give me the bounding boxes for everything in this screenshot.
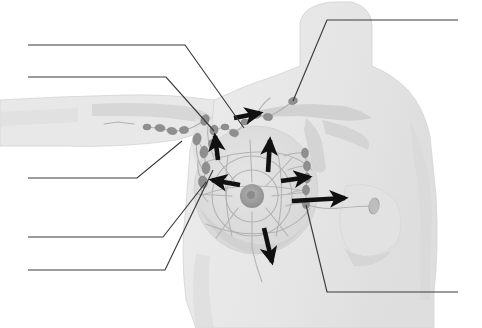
flow-arrow-to-internal-mammary-lower [292,198,345,201]
lymph-node [302,148,309,158]
breast-lymphatic-diagram [0,0,482,328]
opposite-nipple [369,198,379,214]
torso-silhouette [0,2,437,328]
lymph-node [303,185,310,195]
leader-line-lower-left-1[interactable] [28,182,206,237]
lymph-node [304,161,311,171]
lymph-node [221,124,229,130]
lymph-node [241,119,249,125]
lymph-node [202,162,210,174]
anatomy-illustration [0,0,482,328]
flow-arrow-central-up [268,140,270,172]
nipple [247,191,255,199]
flow-arrow-lateral-up [215,136,218,160]
lymph-node [143,124,151,130]
